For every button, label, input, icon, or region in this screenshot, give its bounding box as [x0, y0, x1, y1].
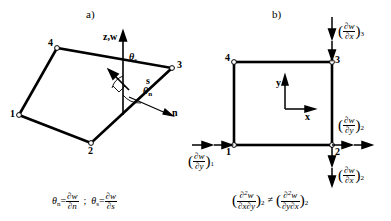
panel-a-node-1-label: 1 — [10, 109, 15, 119]
panel-a-tag: a) — [86, 9, 95, 20]
panel-a-node-4-label: 4 — [48, 38, 53, 48]
not-equal-sign: ≠ — [264, 194, 276, 205]
s-direction-arrow — [109, 70, 130, 91]
fraction-d2w-dxdy: ∂2w∂x∂y — [237, 190, 256, 211]
fraction-dw-dy: ∂w∂y — [343, 116, 355, 136]
panel-b-node-3-label: 3 — [335, 55, 340, 65]
semicolon: ; — [79, 195, 92, 206]
label-dw-dx-2: (∂w∂x)2 — [338, 166, 364, 186]
theta-s-subscript: s — [134, 56, 137, 64]
n-direction-arrow — [129, 97, 173, 116]
numerator: ∂2w — [237, 190, 256, 202]
s-direction-label: s — [146, 76, 150, 86]
panel-a-node-3-label: 3 — [177, 60, 182, 70]
fraction-dw-dn: ∂w∂n — [66, 192, 78, 212]
panel-b-node-1-label: 1 — [226, 147, 231, 157]
fraction-dw-dx: ∂w∂x — [343, 166, 355, 186]
n-direction-label: n — [172, 108, 178, 118]
numerator: ∂2w — [281, 190, 300, 202]
z-axis-arrow — [120, 31, 127, 115]
z-axis-label: z,w — [103, 32, 117, 42]
fraction-dw-dx: ∂w∂x — [343, 22, 355, 42]
fraction-dw-ds: ∂w∂s — [105, 192, 117, 212]
figure-canvas — [0, 0, 391, 221]
equation-mixed-derivative-inequality: (∂2w∂x∂y)2≠(∂2w∂y∂x)2 — [232, 190, 308, 211]
theta-n-subscript: n — [148, 90, 152, 98]
fraction-dw-dy: ∂w∂y — [193, 152, 205, 172]
label-dw-dx-3: (∂w∂x)3 — [338, 22, 364, 42]
theta-s-label: θs — [129, 52, 137, 64]
label-dw-dy-2: (∂w∂y)2 — [338, 116, 364, 136]
local-y-axis-label: y — [276, 78, 281, 88]
panel-b-tag: b) — [272, 9, 281, 20]
panel-b-nodes — [232, 60, 335, 148]
panel-b-node-4-label: 4 — [225, 53, 230, 63]
fraction-d2w-dydx: ∂2w∂y∂x — [281, 190, 300, 211]
label-dw-dy-1: (∂w∂y)1 — [188, 152, 214, 172]
panel-a-node-2-label: 2 — [88, 146, 93, 156]
theta-n-label: θn — [143, 86, 152, 98]
panel-b-element — [234, 62, 332, 145]
panel-b-axes — [282, 75, 315, 112]
local-x-axis-label: x — [305, 112, 310, 122]
panel-b-node-2-label: 2 — [335, 147, 340, 157]
equation-theta-definitions: θn=∂w∂n;θs=∂w∂s — [52, 192, 117, 212]
